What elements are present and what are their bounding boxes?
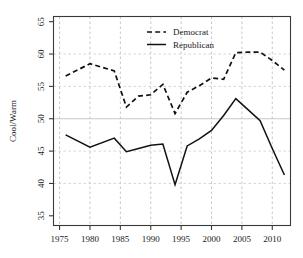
y-axis-tick-labels: 35404550556065 <box>36 17 46 221</box>
vertical-gridlines <box>60 17 273 226</box>
y-tick-label: 45 <box>36 146 46 156</box>
legend-label-democrat: Democrat <box>173 27 209 37</box>
legend-label-republican: Republican <box>173 40 214 50</box>
x-axis-ticks <box>60 226 273 231</box>
chart-figure: 19751980198519901995200020052010 3540455… <box>0 0 303 258</box>
y-tick-label: 60 <box>36 49 46 59</box>
horizontal-gridlines <box>54 54 291 183</box>
x-tick-label: 1975 <box>51 234 70 244</box>
x-tick-label: 1985 <box>111 234 130 244</box>
x-tick-label: 1990 <box>142 234 161 244</box>
y-tick-label: 65 <box>36 17 46 27</box>
y-tick-label: 50 <box>36 114 46 124</box>
series-democrat <box>66 52 285 113</box>
plot-frame <box>54 17 291 226</box>
y-axis-title: Cool/Warm <box>8 100 18 142</box>
x-tick-label: 1980 <box>81 234 100 244</box>
x-tick-label: 2005 <box>233 234 252 244</box>
x-tick-label: 2010 <box>263 234 282 244</box>
y-tick-label: 40 <box>36 178 46 188</box>
line-chart: 19751980198519901995200020052010 3540455… <box>0 0 303 258</box>
x-tick-label: 1995 <box>172 234 191 244</box>
y-axis-ticks <box>49 22 54 216</box>
x-tick-label: 2000 <box>203 234 222 244</box>
y-tick-label: 55 <box>36 81 46 91</box>
x-axis-tick-labels: 19751980198519901995200020052010 <box>51 234 282 244</box>
y-tick-label: 35 <box>36 211 46 221</box>
